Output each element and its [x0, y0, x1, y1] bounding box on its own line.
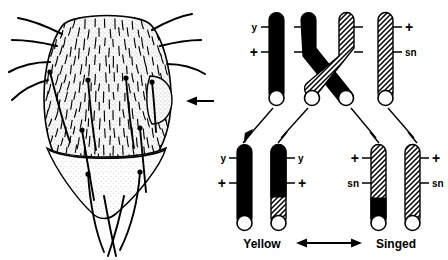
drosophila-abdomen-drawing [0, 0, 215, 260]
twin-spot-double-arrow [296, 239, 362, 248]
d4-label-top: + [432, 150, 440, 166]
p1-label-mid: + [250, 44, 258, 60]
d1-label-mid: + [218, 175, 226, 191]
phenotype-label-yellow: Yellow [243, 237, 281, 251]
phenotype-label-singed: Singed [376, 237, 416, 251]
d3-label-top: + [351, 150, 359, 166]
fly-panel [0, 0, 215, 260]
figure-root: y + [0, 0, 448, 260]
daughter-chromatid-d2: y + [271, 145, 306, 231]
d4-label-mid: sn [432, 178, 444, 189]
d2-label-mid: + [298, 175, 306, 191]
d3-label-mid: sn [347, 178, 359, 189]
p4-label-top: + [405, 19, 413, 35]
daughter-chromatid-d1: y + [218, 145, 252, 231]
chromosome-panel: y + [215, 0, 448, 260]
segregation-arrows [243, 108, 417, 143]
p1-label-top: y [251, 22, 257, 33]
p4-label-mid: sn [405, 47, 417, 58]
parent-chromatid-row: y + [250, 13, 417, 106]
daughter-chromatid-d3: + sn [347, 145, 386, 231]
d2-label-top: y [298, 153, 304, 164]
daughter-chromatid-d4: + sn [405, 145, 444, 231]
parent-chromatid-p4: + sn [378, 13, 417, 106]
parent-chromatid-p1: y + [250, 13, 284, 106]
d1-label-top: y [220, 153, 226, 164]
indicator-arrow [186, 97, 214, 106]
daughter-chromatid-row: y + y + [218, 145, 444, 231]
